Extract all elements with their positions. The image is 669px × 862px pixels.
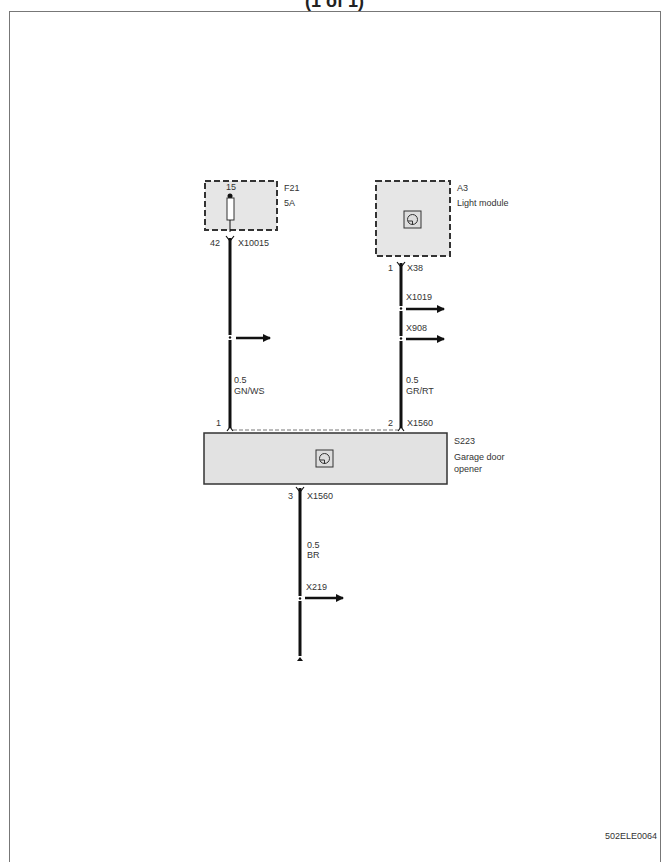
connector-x1560-top: X1560 (407, 418, 433, 428)
light-module-a3[interactable] (376, 181, 450, 256)
fuse-id: F21 (284, 183, 300, 193)
connector-x10015: X10015 (238, 238, 269, 248)
connector-x1019: X1019 (406, 292, 432, 302)
connector-x38: X38 (407, 263, 423, 273)
garage-door-opener-s223[interactable] (204, 433, 447, 484)
connector-x1560-bottom: X1560 (307, 491, 333, 501)
wire-left-color: GN/WS (234, 386, 265, 396)
module-symbol-icon (316, 450, 333, 467)
light-module-name: Light module (457, 198, 509, 208)
opener-name-line2: opener (454, 464, 482, 474)
fuse-f21[interactable] (205, 181, 277, 232)
opener-id: S223 (454, 436, 475, 446)
wire-bottom-color: BR (307, 550, 320, 560)
module-symbol-icon (404, 211, 421, 228)
opener-pin2: 2 (388, 418, 393, 428)
wire-bottom-size: 0.5 (307, 540, 320, 550)
ground-icon (297, 657, 303, 661)
fuse-pin-top: 15 (226, 182, 236, 192)
opener-pin1: 1 (216, 418, 221, 428)
opener-name-line1: Garage door (454, 452, 505, 462)
document-id: 502ELE0064 (605, 831, 657, 841)
splice-icon (229, 336, 231, 338)
fuse-icon (227, 198, 234, 220)
wire-right-size: 0.5 (406, 375, 419, 385)
light-module-id: A3 (457, 183, 468, 193)
connector-x219: X219 (306, 582, 327, 592)
wire-right-color: GR/RT (406, 386, 434, 396)
opener-pin3: 3 (288, 491, 293, 501)
fuse-rating: 5A (284, 198, 295, 208)
light-module-pin: 1 (388, 263, 393, 273)
fuse-pin-bottom: 42 (210, 238, 220, 248)
wire-left-size: 0.5 (234, 375, 247, 385)
connector-x908: X908 (406, 323, 427, 333)
